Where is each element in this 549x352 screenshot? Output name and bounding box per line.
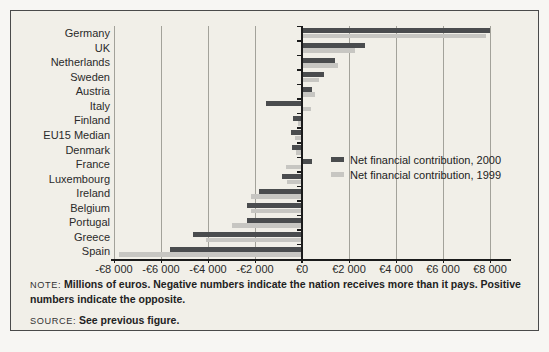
bar-portugal-1999	[232, 223, 303, 228]
gridline	[349, 26, 350, 259]
note-label: NOTE:	[30, 280, 61, 290]
bar-austria-1999	[303, 92, 315, 97]
category-label-netherlands: Netherlands	[51, 55, 110, 70]
gridline	[114, 26, 115, 259]
category-label-ireland: Ireland	[76, 186, 110, 201]
legend-swatch-2000	[331, 157, 344, 162]
source-label: SOURCE:	[30, 316, 76, 326]
chart-legend: Net financial contribution, 2000 Net fin…	[331, 152, 501, 182]
gridline	[161, 26, 162, 259]
category-label-finland: Finland	[74, 113, 110, 128]
bar-france-2000	[303, 159, 312, 164]
bar-sweden-2000	[303, 72, 324, 77]
bar-ireland-1999	[251, 194, 302, 199]
figure-notes: NOTE: Millions of euros. Negative number…	[30, 277, 526, 328]
category-label-portugal: Portugal	[69, 215, 110, 230]
category-label-italy: Italy	[90, 99, 110, 114]
category-label-germany: Germany	[65, 26, 110, 41]
x-axis-tick-label: -€6 000	[135, 263, 187, 275]
note-text: NOTE: Millions of euros. Negative number…	[30, 277, 526, 306]
x-axis-tick-label: €0	[276, 263, 328, 275]
bar-luxembourg-2000	[282, 174, 302, 179]
bar-luxembourg-1999	[287, 180, 302, 185]
gridline	[208, 26, 209, 259]
category-label-luxembourg: Luxembourg	[49, 172, 110, 187]
gridline	[396, 26, 397, 259]
bar-sweden-1999	[303, 78, 319, 83]
x-axis-tick-label: €8 000	[464, 263, 516, 275]
bar-portugal-2000	[247, 218, 302, 223]
bar-greece-2000	[193, 232, 302, 237]
category-label-france: France	[76, 157, 110, 172]
legend-label-2000: Net financial contribution, 2000	[350, 154, 501, 166]
bar-belgium-2000	[247, 203, 302, 208]
bar-spain-1999	[119, 252, 302, 257]
x-axis-tick-label: €4 000	[370, 263, 422, 275]
figure-panel: -€8 000-€6 000-€4 000-€2 000€0€2 000€4 0…	[10, 10, 539, 331]
x-axis-tick-label: -€4 000	[182, 263, 234, 275]
note-body: Millions of euros. Negative numbers indi…	[30, 278, 521, 305]
bar-ireland-2000	[259, 189, 302, 194]
category-label-denmark: Denmark	[65, 143, 110, 158]
legend-swatch-1999	[331, 172, 344, 177]
x-axis-tick-label: -€8 000	[88, 263, 140, 275]
gridline	[443, 26, 444, 259]
bar-netherlands-2000	[303, 58, 335, 63]
bar-italy-1999	[303, 107, 311, 112]
category-label-greece: Greece	[74, 230, 110, 245]
bar-uk-1999	[303, 48, 355, 53]
bar-germany-1999	[303, 34, 486, 39]
bar-france-1999	[286, 165, 302, 170]
x-axis-tick-label: €2 000	[323, 263, 375, 275]
zero-axis-line	[301, 26, 303, 263]
x-axis-tick-label: €6 000	[417, 263, 469, 275]
legend-item-2000: Net financial contribution, 2000	[331, 152, 501, 167]
bar-italy-2000	[266, 101, 302, 106]
category-label-sweden: Sweden	[70, 70, 110, 85]
x-axis-line	[111, 259, 511, 261]
bar-belgium-1999	[251, 209, 302, 214]
legend-label-1999: Net financial contribution, 1999	[350, 169, 501, 181]
category-label-eu15-median: EU15 Median	[43, 128, 110, 143]
category-label-spain: Spain	[82, 244, 110, 259]
source-body: See previous figure.	[79, 314, 179, 326]
x-axis-tick-label: -€2 000	[229, 263, 281, 275]
bar-uk-2000	[303, 43, 365, 48]
legend-item-1999: Net financial contribution, 1999	[331, 167, 501, 182]
bar-austria-2000	[303, 87, 312, 92]
bar-spain-2000	[170, 247, 302, 252]
source-text: SOURCE: See previous figure.	[30, 313, 526, 328]
bar-greece-1999	[206, 238, 302, 243]
category-label-austria: Austria	[76, 84, 110, 99]
gridline	[490, 26, 491, 259]
bar-germany-2000	[303, 28, 490, 33]
category-label-uk: UK	[95, 41, 110, 56]
category-label-belgium: Belgium	[70, 201, 110, 216]
bar-netherlands-1999	[303, 63, 338, 68]
